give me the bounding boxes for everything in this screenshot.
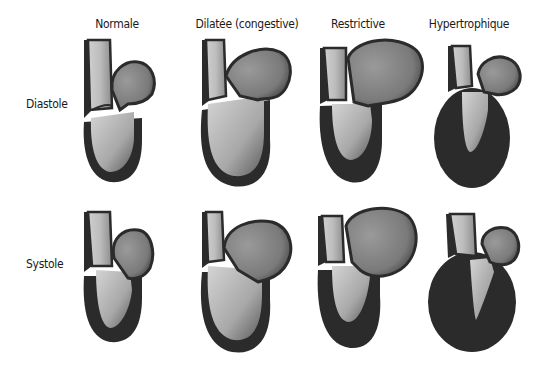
cardiomyopathy-diagram — [0, 0, 548, 373]
heart-restrictive-diastole — [320, 40, 423, 182]
heart-normale-systole — [84, 212, 153, 342]
heart-hypertrophique-systole — [428, 214, 519, 352]
heart-dilatee-systole — [201, 212, 291, 352]
heart-hypertrophique-diastole — [434, 46, 520, 188]
heart-normale-diastole — [84, 40, 155, 182]
heart-dilatee-diastole — [201, 40, 290, 187]
heart-restrictive-systole — [318, 208, 417, 348]
